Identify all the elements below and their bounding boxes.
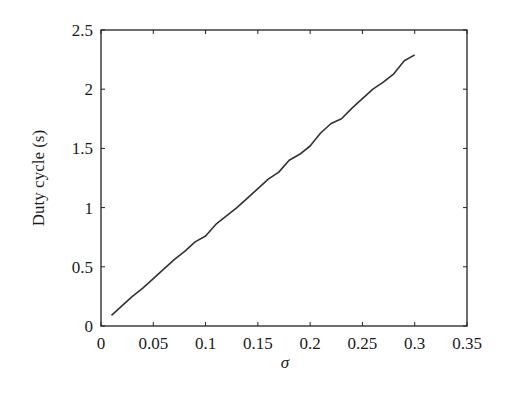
x-axis-ticks: 00.050.10.150.20.250.30.35 [97,30,482,353]
x-tick-label: 0.3 [404,334,425,353]
x-tick-label: 0.1 [195,334,216,353]
x-axis-label: σ [281,353,290,372]
y-tick-label: 2.5 [72,21,93,40]
y-tick-label: 0.5 [72,258,93,277]
x-tick-label: 0.15 [243,334,273,353]
data-line [112,55,415,315]
y-tick-label: 2 [85,80,94,99]
y-tick-label: 1.5 [72,139,93,158]
y-axis-label: Duty cycle (s) [29,130,48,226]
y-tick-label: 1 [85,199,94,218]
plot-area [101,30,467,326]
x-tick-label: 0.05 [138,334,168,353]
x-tick-label: 0.35 [452,334,482,353]
y-tick-label: 0 [85,317,94,336]
x-tick-label: 0 [97,334,106,353]
duty-cycle-chart: 00.050.10.150.20.250.30.35 00.511.522.5 … [0,0,511,396]
axes-frame [101,30,467,326]
x-tick-label: 0.25 [348,334,378,353]
x-tick-label: 0.2 [300,334,321,353]
